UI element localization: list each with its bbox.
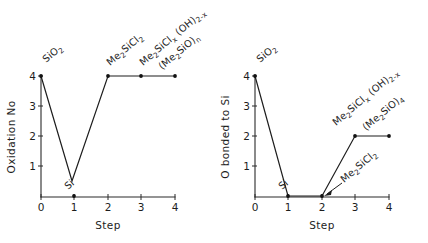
right-y-tick-label-1: 1 bbox=[243, 160, 250, 172]
left-x-tick-label-1: 1 bbox=[71, 201, 78, 213]
left-data-point-3 bbox=[139, 74, 143, 78]
right-y-tick-label-2: 2 bbox=[243, 130, 250, 142]
left-y-tick-label-1: 1 bbox=[29, 160, 36, 172]
left-x-tick-label-3: 3 bbox=[138, 201, 145, 213]
right-x-tick-label-1: 1 bbox=[285, 201, 292, 213]
left-x-tick-label-4: 4 bbox=[172, 201, 179, 213]
left-data-point-0 bbox=[39, 74, 43, 78]
left-data-polyline bbox=[41, 76, 175, 181]
left-data-point-2 bbox=[106, 74, 110, 78]
left-y-axis-title: Oxidation No bbox=[5, 100, 17, 173]
right-x-tick-label-4: 4 bbox=[386, 201, 393, 213]
left-label-silica: SiO2 bbox=[40, 42, 66, 67]
left-x-tick-label-0: 0 bbox=[38, 201, 45, 213]
left-x-axis-title: Step bbox=[95, 219, 121, 231]
right-data-point-0 bbox=[253, 74, 257, 78]
right-label-silica: SiO2 bbox=[254, 42, 280, 67]
right-label-silicon: Si bbox=[276, 177, 290, 191]
right-x-tick-label-2: 2 bbox=[319, 201, 326, 213]
left-y-tick-label-2: 2 bbox=[29, 130, 36, 142]
right-data-point-3 bbox=[353, 134, 357, 138]
right-data-point-2 bbox=[320, 194, 324, 198]
left-y-tick-label-4: 4 bbox=[29, 70, 36, 82]
right-data-point-4 bbox=[387, 134, 391, 138]
right-x-tick-label-3: 3 bbox=[352, 201, 359, 213]
right-chart-svg: 4 3 2 1 0 1 2 3 4 Step O bonded to Si bbox=[214, 0, 428, 243]
right-x-axis-title: Step bbox=[309, 219, 335, 231]
left-y-tick-label-3: 3 bbox=[29, 100, 36, 112]
right-x-tick-label-0: 0 bbox=[252, 201, 259, 213]
right-y-tick-label-4: 4 bbox=[243, 70, 250, 82]
two-panel-chemistry-figure: 4 3 2 1 0 1 2 3 4 Step Oxidation No bbox=[0, 0, 428, 243]
left-data-point-1 bbox=[72, 194, 76, 198]
left-chart-svg: 4 3 2 1 0 1 2 3 4 Step Oxidation No bbox=[0, 0, 214, 243]
right-chart-panel: 4 3 2 1 0 1 2 3 4 Step O bonded to Si bbox=[214, 0, 428, 243]
left-label-silicon: Si bbox=[62, 177, 76, 191]
right-y-axis-title: O bonded to Si bbox=[219, 95, 231, 179]
right-y-tick-label-3: 3 bbox=[243, 100, 250, 112]
right-data-point-1 bbox=[286, 194, 290, 198]
left-chart-panel: 4 3 2 1 0 1 2 3 4 Step Oxidation No bbox=[0, 0, 214, 243]
left-x-tick-label-2: 2 bbox=[105, 201, 112, 213]
left-data-point-4 bbox=[173, 74, 177, 78]
